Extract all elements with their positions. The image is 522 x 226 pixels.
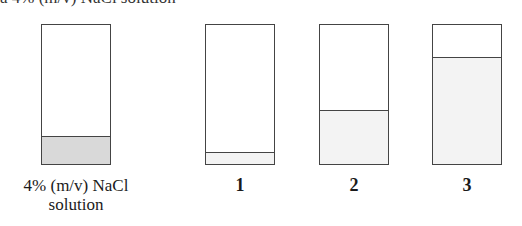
- tube-label-reference: 4% (m/v) NaCl solution: [16, 176, 136, 214]
- tube-2: [319, 24, 389, 165]
- tube-fill-1: [206, 152, 274, 164]
- tube-reference: [41, 24, 111, 165]
- tube-label-reference-line1: 4% (m/v) NaCl: [16, 176, 136, 195]
- tube-3: [432, 24, 502, 165]
- tube-fill-2: [320, 110, 388, 164]
- tube-label-3: 3: [432, 176, 502, 195]
- tube-1: [205, 24, 275, 165]
- tube-label-1: 1: [205, 176, 275, 195]
- top-caption: a 4% (m/v) NaCl solution: [0, 0, 176, 8]
- tube-label-reference-line2: solution: [16, 195, 136, 214]
- tube-fill-reference: [42, 136, 110, 164]
- tube-fill-3: [433, 57, 501, 164]
- tube-label-2: 2: [319, 176, 389, 195]
